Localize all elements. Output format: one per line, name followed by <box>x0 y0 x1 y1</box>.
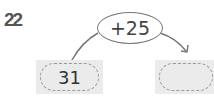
operation-bubble: +25 <box>97 12 163 44</box>
answer-box[interactable] <box>155 60 214 94</box>
answer-input[interactable] <box>159 63 213 91</box>
arrow-line <box>160 33 186 51</box>
start-value: 31 <box>40 63 99 91</box>
left-connector-line <box>72 33 98 60</box>
start-value-box: 31 <box>36 60 103 94</box>
